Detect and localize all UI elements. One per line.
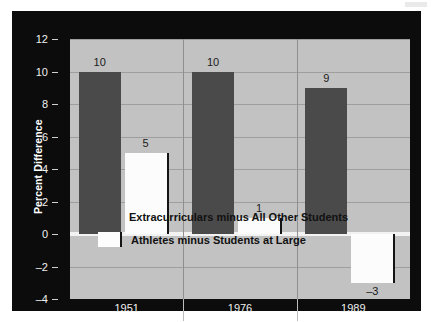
y-axis-tick-label: 4 (42, 163, 48, 175)
gridline (70, 104, 410, 105)
x-axis: 195119761989 (70, 299, 410, 321)
legend-label-0: Extracurriculars minus All Other Student… (129, 211, 348, 223)
x-axis-separator (297, 299, 298, 321)
x-axis-separator (183, 299, 184, 321)
gridline (70, 72, 410, 73)
x-axis-tick-label: 1989 (341, 302, 365, 314)
legend-swatch-dark (98, 209, 120, 224)
y-axis-tick-mark (52, 104, 58, 105)
y-axis-tick-mark (52, 299, 58, 300)
legend-item-0[interactable]: Extracurriculars minus All Other Student… (98, 207, 348, 226)
y-axis-tick-label: 0 (42, 228, 48, 240)
y-axis-tick-label: 10 (36, 66, 48, 78)
x-axis-tick-label: 1951 (114, 302, 138, 314)
y-axis-tick-label: 12 (36, 33, 48, 45)
gridline (70, 169, 410, 170)
y-axis-tick-label: 2 (42, 196, 48, 208)
group-separator (183, 39, 184, 299)
y-axis-tick-label: –4 (36, 293, 48, 305)
plot-area: 1051019–3 Extracurriculars minus All Oth… (70, 39, 410, 299)
scan-artifact (405, 2, 427, 7)
bar-value-label: –3 (366, 285, 378, 297)
y-axis-tick-mark (52, 234, 58, 235)
gridline (70, 202, 410, 203)
legend: Extracurriculars minus All Other Student… (98, 207, 348, 253)
legend-swatch-light (98, 232, 122, 247)
group-separator (297, 39, 298, 299)
bar-value-label: 10 (207, 56, 219, 68)
figure: Percent Difference –4–2024681012 1051019… (0, 0, 433, 322)
chart-frame: Percent Difference –4–2024681012 1051019… (12, 11, 421, 311)
legend-item-1[interactable]: Athletes minus Students at Large (98, 230, 348, 249)
legend-label-1: Athletes minus Students at Large (131, 234, 306, 246)
y-axis-tick-label: 6 (42, 131, 48, 143)
bar-value-label: 5 (143, 137, 149, 149)
y-axis-tick-label: 8 (42, 98, 48, 110)
gridline (70, 137, 410, 138)
y-axis-tick-label: –2 (36, 261, 48, 273)
y-axis-tick-mark (52, 39, 58, 40)
gridline (70, 39, 410, 40)
bar-value-label: 10 (94, 56, 106, 68)
x-axis-tick-label: 1976 (228, 302, 252, 314)
bar-value-label: 9 (323, 72, 329, 84)
y-axis-tick-mark (52, 202, 58, 203)
y-axis-tick-mark (52, 169, 58, 170)
y-axis-tick-mark (52, 267, 58, 268)
y-axis-tick-mark (52, 72, 58, 73)
y-axis-tick-mark (52, 137, 58, 138)
bar-1989-series1[interactable] (351, 234, 395, 283)
